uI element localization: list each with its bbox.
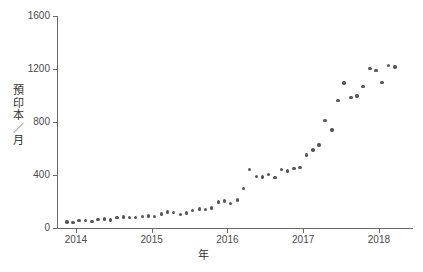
y-axis-title: 預 印 本 ／ 月: [10, 84, 26, 147]
y-tick-label: 0: [0, 223, 50, 233]
data-point: [342, 81, 345, 84]
data-point: [185, 211, 188, 214]
x-tick-mark: [379, 229, 380, 233]
data-point: [141, 215, 144, 218]
x-axis-title: 年: [0, 249, 423, 261]
y-tick-label: 800: [0, 117, 50, 127]
x-tick-mark: [152, 229, 153, 233]
data-point: [115, 216, 118, 219]
data-point: [236, 198, 239, 201]
plot-area: [57, 16, 413, 228]
y-tick-label-text: 1200: [28, 64, 50, 74]
data-point: [336, 99, 339, 102]
data-point: [229, 202, 232, 205]
data-point: [166, 210, 169, 213]
y-tick-label: 400: [0, 170, 50, 180]
data-point: [292, 167, 295, 170]
x-tick-mark: [227, 229, 228, 233]
data-point: [147, 214, 150, 217]
data-point: [71, 221, 74, 224]
data-point: [191, 209, 194, 212]
data-point: [380, 81, 383, 84]
data-point: [387, 64, 390, 67]
data-point: [90, 220, 93, 223]
data-point: [355, 94, 358, 97]
data-point: [280, 168, 283, 171]
data-point: [128, 216, 131, 219]
x-tick-label: 2014: [56, 234, 96, 245]
data-point: [248, 168, 251, 171]
data-point: [368, 67, 371, 70]
y-tick-label-text: 1600: [28, 11, 50, 21]
data-point: [179, 213, 182, 216]
data-point: [172, 211, 175, 214]
data-point: [96, 218, 99, 221]
y-tick-label-text: 400: [33, 170, 50, 180]
data-point: [103, 217, 106, 220]
data-point: [273, 176, 276, 179]
y-tick-label: 1200: [0, 64, 50, 74]
y-tick-mark: [53, 228, 57, 229]
data-point: [286, 169, 289, 172]
x-axis-title-text: 年: [198, 249, 209, 261]
data-point: [77, 219, 80, 222]
data-point: [255, 175, 258, 178]
data-point: [217, 200, 220, 203]
data-point: [204, 208, 207, 211]
data-point: [223, 199, 226, 202]
data-point: [122, 215, 125, 218]
y-axis-title-char-0: 預: [10, 84, 26, 97]
data-point: [298, 166, 301, 169]
data-point: [65, 220, 68, 223]
scatter-chart-figure: 預 印 本 ／ 月 040080012001600 20142015201620…: [0, 0, 423, 272]
data-point: [109, 218, 112, 221]
y-axis-title-char-1: 印: [10, 97, 26, 110]
data-point: [84, 219, 87, 222]
data-point: [393, 65, 396, 68]
x-tick-label: 2015: [132, 234, 172, 245]
x-axis-line: [57, 228, 413, 229]
data-point: [153, 215, 156, 218]
data-point: [374, 69, 377, 72]
data-point: [317, 143, 320, 146]
data-point: [349, 96, 352, 99]
y-tick-label-text: 0: [44, 223, 50, 233]
data-point: [160, 212, 163, 215]
y-tick-label: 1600: [0, 11, 50, 21]
data-point: [261, 175, 264, 178]
x-tick-mark: [303, 229, 304, 233]
data-point: [267, 173, 270, 176]
data-point: [311, 148, 314, 151]
data-point: [198, 207, 201, 210]
x-tick-label: 2018: [359, 234, 399, 245]
data-point: [134, 216, 137, 219]
data-point: [323, 119, 326, 122]
x-tick-mark: [76, 229, 77, 233]
data-point: [361, 85, 364, 88]
data-point: [305, 153, 308, 156]
data-point: [330, 128, 333, 131]
x-tick-label: 2016: [207, 234, 247, 245]
data-point: [210, 206, 213, 209]
y-tick-label-text: 800: [33, 117, 50, 127]
data-point: [242, 187, 245, 190]
x-tick-label: 2017: [283, 234, 323, 245]
y-axis-title-char-4: 月: [10, 134, 26, 147]
